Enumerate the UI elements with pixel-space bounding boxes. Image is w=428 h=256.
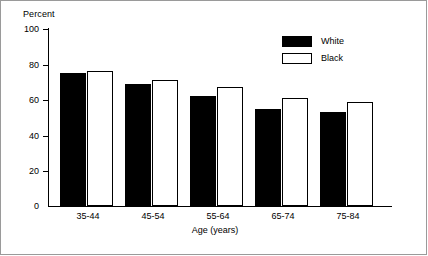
legend-label-white: White — [321, 37, 344, 46]
x-tick-label-35-44: 35-44 — [59, 211, 117, 221]
y-tick-label-60: 60 — [13, 96, 39, 105]
x-tick-label-45-54: 45-54 — [124, 211, 182, 221]
x-tick-label-65-74: 65-74 — [254, 211, 312, 221]
y-tick-60 — [43, 100, 48, 101]
bar-black-45-54 — [152, 80, 178, 206]
y-axis-title: Percent — [23, 9, 55, 19]
bar-white-65-74 — [255, 109, 281, 206]
bar-black-55-64 — [217, 87, 243, 206]
x-tick-label-55-64: 55-64 — [189, 211, 247, 221]
y-tick-20 — [43, 171, 48, 172]
bar-white-75-84 — [320, 112, 346, 206]
bar-white-45-54 — [125, 84, 151, 206]
y-tick-label-40: 40 — [13, 132, 39, 141]
x-axis-title: Age (years) — [1, 225, 428, 235]
bar-black-75-84 — [347, 102, 373, 206]
y-tick-label-80: 80 — [13, 61, 39, 70]
y-tick-100 — [43, 29, 48, 30]
y-tick-80 — [43, 65, 48, 66]
legend-entry-black: Black — [282, 51, 344, 65]
bar-white-35-44 — [60, 73, 86, 206]
y-tick-40 — [43, 136, 48, 137]
bar-white-55-64 — [190, 96, 216, 206]
legend-entry-white: White — [282, 34, 344, 48]
x-axis-line — [48, 206, 392, 207]
y-tick-label-20: 20 — [13, 167, 39, 176]
legend-swatch-white-icon — [282, 36, 312, 47]
y-tick-label-100: 100 — [13, 25, 39, 34]
x-tick-label-75-84: 75-84 — [319, 211, 377, 221]
legend-swatch-black-icon — [282, 53, 312, 64]
chart-legend: White Black — [282, 34, 344, 68]
y-tick-label-0: 0 — [13, 202, 39, 211]
bar-black-35-44 — [87, 71, 113, 206]
bar-black-65-74 — [282, 98, 308, 206]
chart-frame: Percent 100 80 60 40 20 0 — [0, 0, 427, 255]
legend-label-black: Black — [321, 54, 343, 63]
